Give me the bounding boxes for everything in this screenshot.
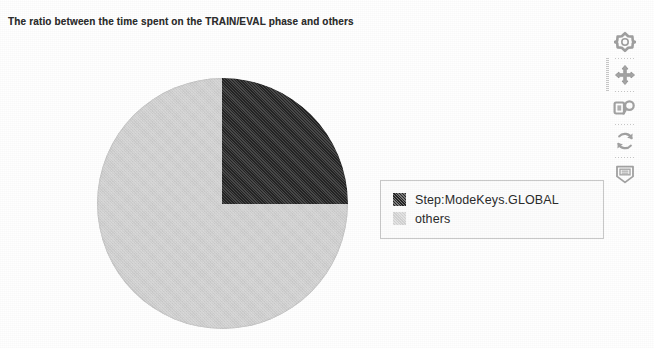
refresh-icon[interactable] xyxy=(608,127,642,155)
legend-label: others xyxy=(415,212,450,226)
legend-swatch-others xyxy=(393,212,406,225)
screenshot-root: The ratio between the time spent on the … xyxy=(0,0,654,348)
figure-toolbar xyxy=(604,28,646,188)
pie-body xyxy=(97,78,348,329)
chart-legend: Step:ModeKeys.GLOBAL others xyxy=(380,180,604,239)
legend-label: Step:ModeKeys.GLOBAL xyxy=(415,193,559,207)
save-icon[interactable] xyxy=(608,160,642,188)
legend-swatch-step-modekeys-global xyxy=(393,193,406,206)
move-pan-icon[interactable] xyxy=(608,61,642,89)
legend-item[interactable]: others xyxy=(393,209,593,228)
legend-item[interactable]: Step:ModeKeys.GLOBAL xyxy=(393,190,593,209)
home-reset-icon[interactable] xyxy=(608,28,642,56)
pie-chart xyxy=(97,78,348,329)
pie-slices xyxy=(97,78,348,329)
chart-title: The ratio between the time spent on the … xyxy=(8,16,354,27)
zoom-select-icon[interactable] xyxy=(608,94,642,122)
